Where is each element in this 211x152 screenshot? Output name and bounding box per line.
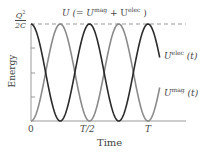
x-tick-0: 0: [28, 124, 34, 134]
x-tick-T: T: [145, 124, 151, 134]
x-axis-label: Time: [97, 137, 122, 148]
total-energy-label: U (= Umag + Uelec ): [62, 6, 147, 18]
y-max-label: Q2 2C: [15, 8, 26, 30]
u-elec-legend: Uelec (t): [164, 49, 197, 61]
x-tick-half: T/2: [80, 124, 95, 134]
y-axis-label: Energy: [7, 55, 17, 88]
u-mag-legend: Umag (t): [164, 86, 198, 98]
